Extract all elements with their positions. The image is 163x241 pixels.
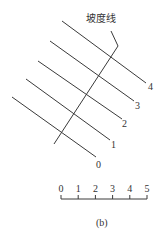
contour-line-2 [38, 61, 122, 119]
scale-label-2: 2 [93, 183, 98, 194]
contour-line-1 [26, 79, 110, 140]
contour-lines: 43210 [12, 21, 153, 170]
contour-label-4: 4 [148, 81, 153, 92]
scale-label-3: 3 [110, 183, 115, 194]
scale-label-5: 5 [145, 183, 150, 194]
scale-label-0: 0 [59, 183, 64, 194]
scale-label-1: 1 [76, 183, 81, 194]
contour-diagram: 坡度线 43210 012345 (b) [0, 0, 163, 241]
contour-line-0 [12, 97, 96, 157]
contour-label-0: 0 [96, 159, 101, 170]
scale-label-4: 4 [127, 183, 132, 194]
figure-caption: (b) [96, 217, 108, 229]
slope-line [54, 31, 118, 144]
slope-line-label: 坡度线 [86, 12, 116, 24]
contour-label-1: 1 [111, 139, 116, 150]
contour-label-3: 3 [135, 100, 140, 111]
contour-line-3 [50, 41, 134, 101]
contour-label-2: 2 [122, 118, 127, 129]
scale-bar: 012345 [59, 183, 150, 199]
contour-line-4 [62, 21, 146, 83]
